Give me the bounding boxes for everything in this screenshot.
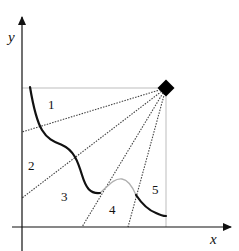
ray-3	[82, 88, 166, 227]
x-axis-label: x	[209, 231, 217, 247]
source-point-diamond	[158, 80, 175, 97]
curve-segment-lower	[136, 195, 166, 216]
y-axis-label: y	[6, 29, 15, 45]
ray-1	[22, 88, 166, 132]
curve-segment-upper	[30, 87, 100, 193]
hidden-curve-segment	[100, 179, 136, 195]
region-label-1: 1	[48, 97, 55, 112]
ray-4	[128, 88, 166, 227]
region-label-2: 2	[28, 158, 35, 173]
diagram-figure: y x 1 2 3 4 5	[0, 0, 239, 251]
ray-2	[22, 88, 166, 198]
region-label-3: 3	[61, 189, 68, 204]
region-label-4: 4	[109, 202, 116, 217]
region-label-5: 5	[152, 182, 159, 197]
